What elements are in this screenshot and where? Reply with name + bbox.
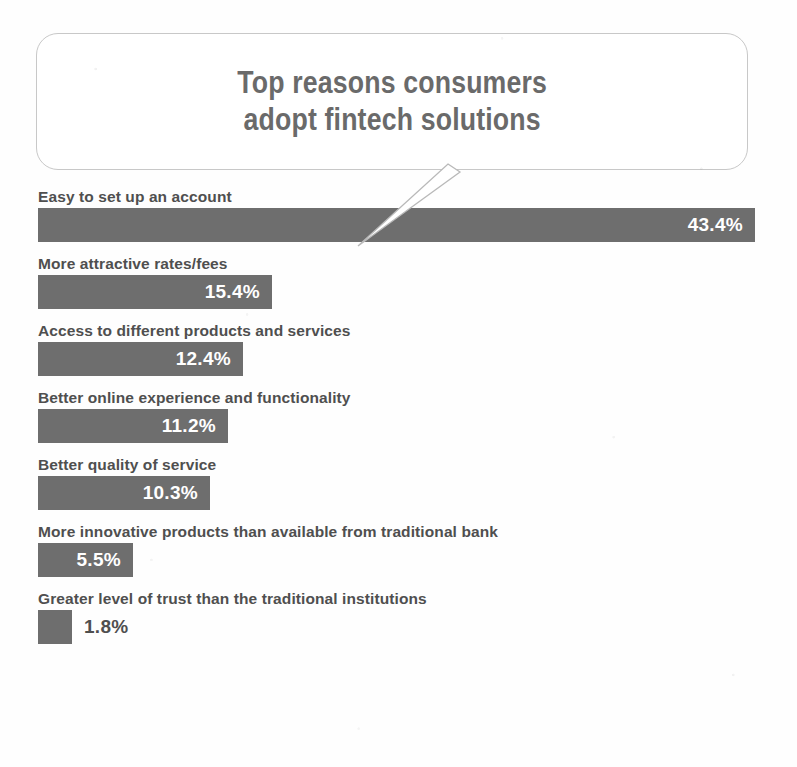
bar-value: 10.3%	[143, 482, 198, 504]
bar-label: More attractive rates/fees	[0, 253, 797, 275]
bar-group: Access to different products and service…	[0, 320, 797, 376]
bar[interactable]: 43.4%	[38, 208, 755, 242]
bar-group: Easy to set up an account 43.4%	[0, 186, 797, 242]
bar-group: Better online experience and functionali…	[0, 387, 797, 443]
bar-value: 12.4%	[176, 348, 231, 370]
chart-title: Top reasons consumers adopt fintech solu…	[237, 65, 547, 138]
bar-label: Better quality of service	[0, 454, 797, 476]
title-callout-bubble: Top reasons consumers adopt fintech solu…	[36, 33, 748, 170]
bar[interactable]: 5.5%	[38, 543, 133, 577]
bar-track: 15.4%	[0, 275, 797, 309]
bar-chart: Easy to set up an account 43.4% More att…	[0, 186, 797, 655]
bar[interactable]: 11.2%	[38, 409, 228, 443]
bar[interactable]: 10.3%	[38, 476, 210, 510]
bar-track: 12.4%	[0, 342, 797, 376]
bar-track: 10.3%	[0, 476, 797, 510]
bar-value: 11.2%	[162, 415, 216, 437]
bar-track: 5.5%	[0, 543, 797, 577]
bar-group: More innovative products than available …	[0, 521, 797, 577]
bar-group: More attractive rates/fees 15.4%	[0, 253, 797, 309]
bar-value: 43.4%	[688, 214, 743, 236]
bar-value: 15.4%	[205, 281, 260, 303]
bar-label: Access to different products and service…	[0, 320, 797, 342]
bar-label: Greater level of trust than the traditio…	[0, 588, 797, 610]
bar-track: 43.4%	[0, 208, 797, 242]
bar-track: 11.2%	[0, 409, 797, 443]
bar[interactable]: 15.4%	[38, 275, 272, 309]
bar[interactable]: 12.4%	[38, 342, 243, 376]
bar-label: More innovative products than available …	[0, 521, 797, 543]
bar-value: 5.5%	[76, 549, 121, 571]
bar-group: Greater level of trust than the traditio…	[0, 588, 797, 644]
bar-group: Better quality of service 10.3%	[0, 454, 797, 510]
bar[interactable]: 1.8%	[38, 610, 72, 644]
bar-label: Easy to set up an account	[0, 186, 797, 208]
bar-label: Better online experience and functionali…	[0, 387, 797, 409]
bar-track: 1.8%	[0, 610, 797, 644]
bar-value: 1.8%	[84, 616, 129, 638]
